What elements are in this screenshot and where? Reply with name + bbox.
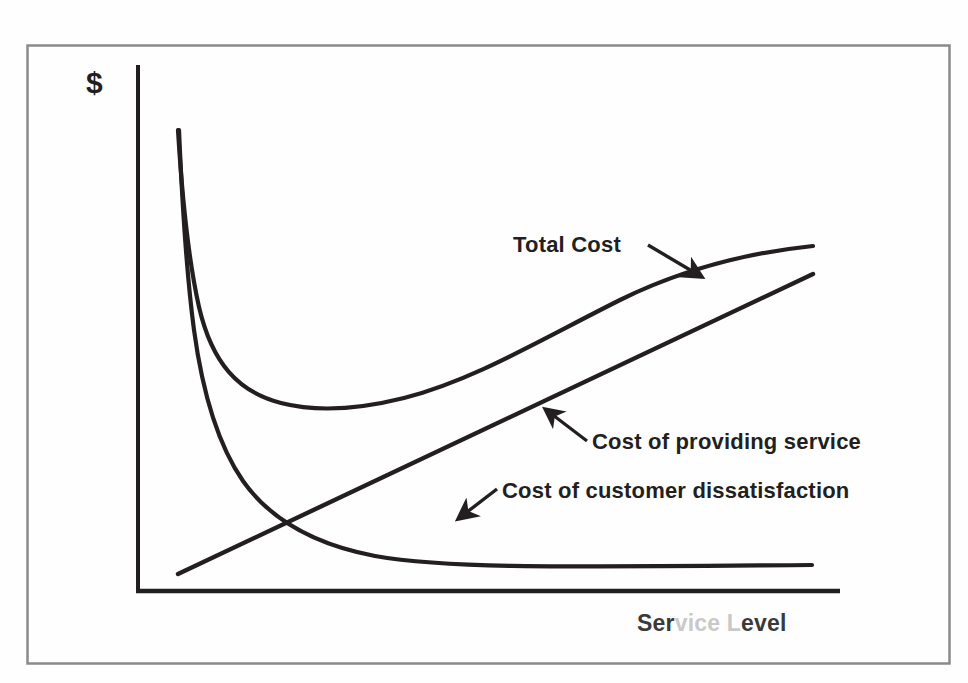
annotation-arrow-customer-dissatisfaction (458, 489, 497, 519)
annotation-arrow-providing-service (545, 409, 587, 441)
cost-tradeoff-chart (0, 0, 968, 683)
series-label-customer-dissatisfaction: Cost of customer dissatisfaction (502, 478, 849, 504)
y-axis-title: $ (86, 68, 103, 98)
slide-border (28, 46, 950, 664)
x-axis-title-start: Ser (637, 610, 675, 636)
series-label-total-cost: Total Cost (513, 232, 621, 258)
figure-root: $ Total Cost Cost of providing service C… (0, 0, 968, 683)
x-axis-title: Service Level (637, 610, 787, 637)
annotation-arrow-total-cost (648, 245, 702, 277)
x-axis-title-end: evel (741, 610, 787, 636)
x-axis-title-faded: vice L (675, 610, 741, 636)
series-line-providing-service (178, 274, 813, 574)
series-label-providing-service: Cost of providing service (592, 429, 861, 455)
axis-lines (136, 65, 840, 591)
series-line-total-cost (178, 130, 813, 409)
